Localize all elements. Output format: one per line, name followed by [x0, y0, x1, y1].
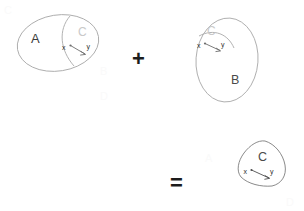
arrow-head-a [80, 51, 85, 55]
subset-c-boundary-in-a [62, 16, 74, 66]
watermark-d-mid: D [100, 90, 108, 102]
relation-arrow-a: x y [62, 43, 91, 55]
label-subset-c-in-b: C [207, 24, 216, 38]
label-point-y-b: y [221, 41, 225, 49]
watermark-b-top: B [100, 65, 107, 77]
watermark-a-bottom: A [205, 152, 213, 164]
label-point-x-b: x [197, 42, 201, 49]
term-b-group: B C x y [193, 16, 261, 104]
operator-equals: = [170, 170, 183, 195]
label-point-x-a: x [62, 44, 66, 51]
label-subset-c-result: C [258, 150, 267, 164]
subset-c-boundary-in-b [199, 32, 234, 48]
label-point-x-result: x [244, 168, 248, 175]
diagram-canvas: B D A D C A C x y [0, 0, 304, 211]
label-point-y-result: y [270, 168, 274, 176]
operator-plus-group: + [132, 46, 145, 71]
operator-equals-group: = [170, 170, 183, 195]
label-point-y-a: y [87, 43, 91, 51]
ellipse-b-outline [193, 16, 261, 104]
relation-arrow-b: x y [197, 41, 225, 52]
result-group: C x y [238, 141, 285, 186]
watermark-c-corner: C [4, 4, 12, 16]
term-a-group: A C x y [13, 9, 103, 77]
set-composition-diagram: B D A D C A C x y [0, 0, 304, 211]
label-subset-c-in-a: C [78, 25, 87, 39]
watermark-d-corner: D [286, 196, 294, 208]
watermark-layer: B D A D C [4, 4, 294, 208]
operator-plus: + [132, 46, 145, 71]
label-set-b: B [231, 73, 239, 87]
arrow-head-b [216, 48, 221, 52]
relation-arrow-result: x y [244, 168, 275, 179]
label-set-a: A [31, 31, 40, 46]
